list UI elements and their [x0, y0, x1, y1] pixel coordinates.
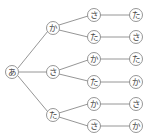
node-label: さ [90, 121, 99, 131]
node-l3-0: た [130, 9, 143, 22]
edge-l1-2-l2-4 [59, 104, 88, 113]
node-l3-5: か [130, 120, 143, 133]
node-l3-2: た [130, 53, 143, 66]
edge-root-l1-2 [18, 76, 48, 112]
node-label: か [49, 23, 58, 33]
edge-l1-1-l2-2 [59, 60, 88, 70]
node-l2-4: か [88, 98, 101, 111]
node-l2-1: た [88, 31, 101, 44]
node-label: た [132, 54, 141, 64]
edge-l1-2-l2-5 [59, 117, 88, 126]
node-label: か [90, 99, 99, 109]
node-l2-3: た [88, 76, 101, 89]
node-l2-0: さ [88, 9, 101, 22]
node-l2-5: さ [88, 120, 101, 133]
node-l1-0: か [47, 22, 60, 35]
tree-diagram: あ か さ た さ た か た か さ た さ [0, 0, 149, 138]
node-l3-4: さ [130, 98, 143, 111]
node-label: か [90, 54, 99, 64]
node-label: か [132, 121, 141, 131]
node-label: た [90, 32, 99, 42]
node-l3-3: か [130, 76, 143, 89]
node-label: か [132, 77, 141, 87]
edge-l1-0-l2-0 [59, 16, 88, 25]
node-label: さ [90, 10, 99, 20]
node-l1-2: た [47, 109, 60, 122]
edge-root-l1-0 [18, 31, 48, 68]
node-label: あ [8, 67, 17, 77]
node-l3-1: さ [130, 31, 143, 44]
node-l2-2: か [88, 53, 101, 66]
node-label: た [132, 10, 141, 20]
node-label: た [90, 77, 99, 87]
node-label: さ [49, 67, 58, 77]
node-label: た [49, 110, 58, 120]
node-label: さ [132, 32, 141, 42]
edge-l1-1-l2-3 [59, 74, 88, 81]
node-l1-1: さ [47, 66, 60, 79]
node-root: あ [6, 66, 19, 79]
edge-l1-0-l2-1 [59, 30, 88, 37]
node-label: さ [132, 99, 141, 109]
edges [18, 15, 130, 126]
